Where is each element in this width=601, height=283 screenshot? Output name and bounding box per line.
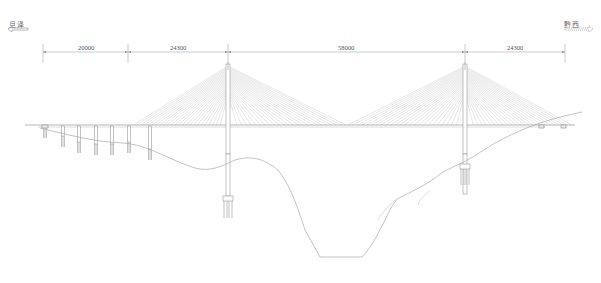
bridge-elevation-drawing: 旦泽 黔西 20000 24300 58000 24300 bbox=[0, 0, 601, 283]
abutments bbox=[42, 125, 566, 128]
left-tower bbox=[223, 62, 233, 218]
terrain-right-edge bbox=[418, 190, 430, 205]
bridge-deck bbox=[25, 125, 575, 127]
stay-cables bbox=[133, 66, 572, 125]
left-arrow-icon bbox=[8, 26, 28, 32]
right-arrow-icon bbox=[565, 26, 593, 32]
bridge-svg bbox=[0, 0, 601, 283]
approach-piers bbox=[44, 126, 152, 160]
terrain-profile bbox=[40, 112, 582, 257]
dimension-line bbox=[43, 44, 565, 63]
